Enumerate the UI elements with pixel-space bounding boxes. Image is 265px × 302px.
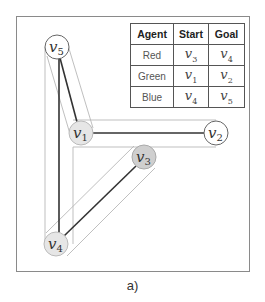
cell-start: v3 xyxy=(174,45,209,66)
edge-v3-v4 xyxy=(64,166,136,236)
node-v5[interactable]: v5 xyxy=(45,35,69,59)
figure-caption: a) xyxy=(0,278,265,293)
header-start: Start xyxy=(174,24,209,45)
header-goal: Goal xyxy=(209,24,245,45)
cell-goal: v5 xyxy=(209,87,245,108)
cell-agent: Blue xyxy=(131,87,174,108)
cell-agent: Red xyxy=(131,45,174,66)
table-row: Green v1 v2 xyxy=(131,66,245,87)
node-v4[interactable]: v4 xyxy=(44,232,68,256)
cell-start: v1 xyxy=(174,66,209,87)
header-agent: Agent xyxy=(131,24,174,45)
node-v2[interactable]: v2 xyxy=(204,121,228,145)
cell-goal: v2 xyxy=(209,66,245,87)
table-row: Blue v4 v5 xyxy=(131,87,245,108)
figure: v5 v1 v2 v3 v4 Agent Start Goal xyxy=(0,0,265,302)
cell-agent: Green xyxy=(131,66,174,87)
cell-goal: v4 xyxy=(209,45,245,66)
cell-start: v4 xyxy=(174,87,209,108)
table-header-row: Agent Start Goal xyxy=(131,24,245,45)
node-v3[interactable]: v3 xyxy=(132,145,156,169)
agent-table: Agent Start Goal Red v3 v4 Green v1 v2 B… xyxy=(130,23,245,108)
node-v1[interactable]: v1 xyxy=(69,121,93,145)
table-row: Red v3 v4 xyxy=(131,45,245,66)
